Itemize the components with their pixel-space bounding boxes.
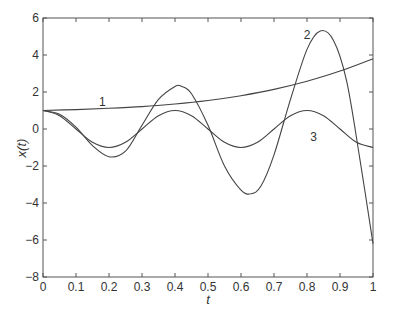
x-tick-label: 0.3 bbox=[134, 280, 151, 294]
curve-label-1: 1 bbox=[99, 95, 106, 109]
y-tick-label: 6 bbox=[32, 11, 39, 25]
x-tick-label: 0.7 bbox=[266, 280, 283, 294]
x-tick-label: 0.4 bbox=[167, 280, 184, 294]
x-tick-label: 1 bbox=[370, 280, 377, 294]
y-tick-label: 0 bbox=[32, 122, 39, 136]
y-tick-label: −4 bbox=[25, 196, 39, 210]
x-tick-label: 0 bbox=[40, 280, 47, 294]
x-tick-label: 0.9 bbox=[332, 280, 349, 294]
curve-label-2: 2 bbox=[304, 28, 311, 42]
y-tick-label: 2 bbox=[32, 85, 39, 99]
x-axis-label: t bbox=[206, 292, 211, 307]
y-tick-label: −8 bbox=[25, 270, 39, 284]
curve-label-3: 3 bbox=[310, 130, 317, 144]
y-tick-label: 4 bbox=[32, 48, 39, 62]
y-tick-label: −2 bbox=[25, 159, 39, 173]
line-chart: 00.10.20.30.40.50.60.70.80.91 −8−6−4−202… bbox=[0, 0, 394, 313]
x-tick-label: 0.8 bbox=[299, 280, 316, 294]
x-tick-label: 0.6 bbox=[233, 280, 250, 294]
plot-area bbox=[43, 18, 373, 277]
y-axis-label: x(t) bbox=[14, 139, 29, 159]
x-tick-label: 0.1 bbox=[68, 280, 85, 294]
y-tick-label: −6 bbox=[25, 233, 39, 247]
x-tick-label: 0.2 bbox=[101, 280, 118, 294]
